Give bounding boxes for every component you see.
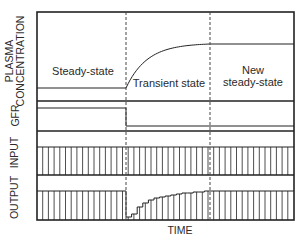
- output-label-text: OUTPUT: [9, 170, 20, 226]
- input-label-text: INPUT: [9, 131, 20, 175]
- time-axis-label: TIME: [150, 224, 210, 236]
- transient-state-label: Transient state: [129, 77, 209, 89]
- gfr-label: GFR: [10, 99, 21, 133]
- gfr-label-text: GFR: [10, 99, 21, 133]
- gfr-line: [37, 108, 294, 126]
- output-label: OUTPUT: [9, 170, 20, 226]
- input-label: INPUT: [9, 131, 20, 175]
- plasma-label-line2: CONCENTRATION: [15, 11, 26, 111]
- new-steady-line1: New: [214, 64, 292, 76]
- steady-state-label: Steady-state: [44, 65, 122, 77]
- outer-frame: [37, 12, 294, 220]
- new-steady-state-label: New steady-state: [214, 64, 292, 88]
- plasma-concentration-label: PLASMA CONCENTRATION: [4, 11, 26, 111]
- renal-clearance-diagram: PLASMA CONCENTRATION GFR INPUT OUTPUT St…: [0, 0, 297, 238]
- new-steady-line2: steady-state: [214, 76, 292, 88]
- diagram-canvas: [0, 0, 297, 238]
